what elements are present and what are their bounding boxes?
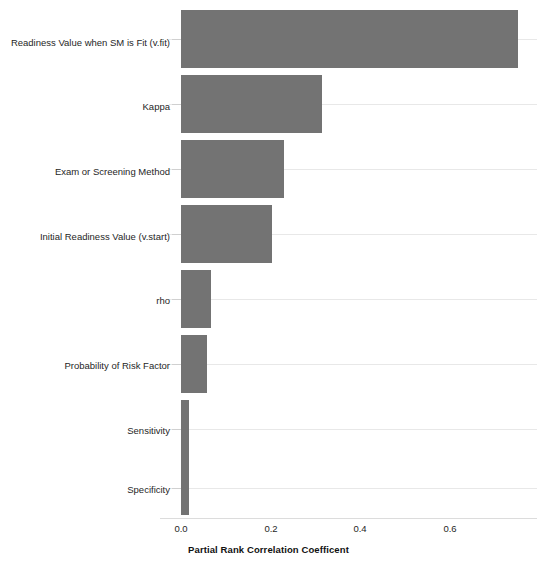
x-axis-line: [160, 518, 537, 519]
y-axis-label-kappa: Kappa: [0, 101, 170, 112]
y-axis-label-readiness-value-when-sm-is-fit: Readiness Value when SM is Fit (v.fit): [0, 37, 170, 48]
y-axis-tick: [172, 488, 181, 489]
y-axis-tick: [172, 234, 181, 235]
gridline: [169, 488, 537, 489]
y-axis-tick: [172, 299, 181, 300]
y-axis-label-exam-or-screening-method: Exam or Screening Method: [0, 166, 170, 177]
bar-kappa[interactable]: [181, 75, 322, 133]
x-axis-tick-label-2: 0.4: [353, 523, 366, 534]
bar-rho[interactable]: [181, 270, 211, 328]
gridline: [169, 364, 537, 365]
x-axis-tick-label-0: 0.0: [174, 523, 187, 534]
y-axis-label-rho: rho: [0, 295, 170, 306]
bar-specificity[interactable]: [181, 458, 189, 515]
x-axis-tick-label-1: 0.2: [264, 523, 277, 534]
plot-area: [181, 0, 537, 518]
bar-exam-or-screening-method[interactable]: [181, 140, 284, 198]
y-axis-tick: [172, 429, 181, 430]
y-axis-label-sensitivity: Sensitivity: [0, 425, 170, 436]
y-axis-label-initial-readiness-value: Initial Readiness Value (v.start): [0, 231, 170, 242]
gridline: [169, 429, 537, 430]
y-axis-tick: [172, 169, 181, 170]
x-axis-title: Partial Rank Correlation Coefficent: [0, 544, 537, 555]
bar-sensitivity[interactable]: [181, 400, 189, 458]
y-axis-tick: [172, 39, 181, 40]
y-axis-tick: [172, 104, 181, 105]
partial-rank-correlation-bar-chart: Readiness Value when SM is Fit (v.fit) K…: [0, 0, 537, 563]
bar-probability-of-risk-factor[interactable]: [181, 335, 207, 393]
x-axis-tick-label-3: 0.6: [443, 523, 456, 534]
gridline: [169, 299, 537, 300]
y-axis-label-specificity: Specificity: [0, 484, 170, 495]
bar-readiness-value-when-sm-is-fit[interactable]: [181, 10, 518, 68]
y-axis-label-probability-of-risk-factor: Probability of Risk Factor: [0, 360, 170, 371]
bar-initial-readiness-value[interactable]: [181, 205, 272, 263]
y-axis-tick: [172, 364, 181, 365]
